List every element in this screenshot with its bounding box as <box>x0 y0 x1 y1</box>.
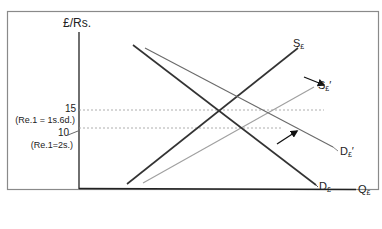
demand-shifted-curve <box>145 48 333 147</box>
supply-sub: £ <box>300 43 304 50</box>
demand-shifted-leader <box>333 147 338 151</box>
demand-shifted-letter: D <box>340 145 348 157</box>
supply-shifted-curve <box>143 87 314 183</box>
supply-curve <box>127 48 298 184</box>
tick-10-note: (Re.1=2s.) <box>31 140 73 150</box>
tick-10: 10 <box>58 127 69 138</box>
tick-15-note: (Re.1 = 1s.6d.) <box>15 115 75 125</box>
demand-shifted-label: D£′ <box>340 145 354 158</box>
demand-curve <box>133 45 316 185</box>
demand-letter: D <box>319 180 327 192</box>
demand-leader <box>316 185 318 187</box>
x-axis-label: Q£ <box>358 183 370 196</box>
tick-15: 15 <box>65 103 76 114</box>
demand-shifted-prime: ′ <box>352 145 354 157</box>
demand-sub: £ <box>327 186 331 193</box>
y-axis-label: £/Rs. <box>63 16 91 30</box>
supply-label: S£ <box>293 37 304 50</box>
tick-pointer-10 <box>68 131 78 135</box>
demand-shift-arrow <box>277 131 297 144</box>
demand-label: D£ <box>319 180 331 193</box>
x-axis-sub: £ <box>367 189 371 196</box>
supply-shifted-prime: ′ <box>329 79 331 91</box>
x-axis-letter: Q <box>358 183 367 195</box>
frame-border <box>8 12 379 190</box>
supply-shifted-label: S£′ <box>318 79 331 92</box>
